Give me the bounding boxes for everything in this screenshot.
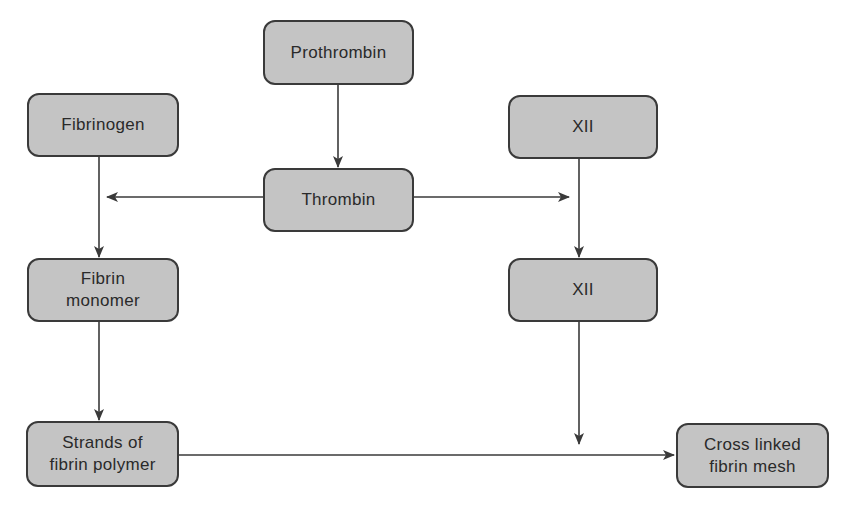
node-label: XII [572, 279, 594, 301]
node-cross-linked-fibrin-mesh: Cross linked fibrin mesh [676, 423, 829, 488]
node-label: Strands of fibrin polymer [49, 432, 155, 476]
node-label: Cross linked fibrin mesh [704, 434, 801, 478]
node-fibrin-monomer: Fibrin monomer [27, 258, 179, 322]
node-xii-top: XII [508, 95, 658, 159]
node-label: Prothrombin [291, 42, 387, 64]
coagulation-cascade-diagram: Prothrombin Thrombin Fibrinogen Fibrin m… [0, 0, 847, 508]
node-thrombin: Thrombin [263, 168, 414, 232]
node-label: XII [572, 116, 594, 138]
node-label: Fibrinogen [61, 114, 144, 136]
node-prothrombin: Prothrombin [263, 20, 414, 85]
node-xii-bottom: XII [508, 258, 658, 322]
node-fibrin-polymer: Strands of fibrin polymer [26, 421, 179, 487]
node-label: Fibrin monomer [66, 268, 140, 312]
node-fibrinogen: Fibrinogen [27, 93, 179, 157]
node-label: Thrombin [301, 189, 375, 211]
